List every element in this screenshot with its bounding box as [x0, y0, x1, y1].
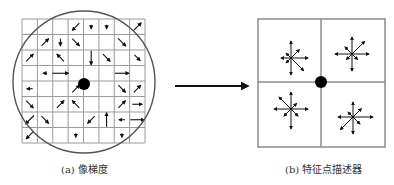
orientation-arrow-icon [286, 58, 291, 63]
keypoint-descriptor-panel [258, 19, 385, 147]
sift-descriptor-figure [0, 0, 394, 185]
keypoint-dot [78, 78, 90, 90]
gradient-arrow-icon [118, 85, 125, 92]
orientation-arrow-icon [340, 117, 353, 130]
gradient-arrow-icon [88, 116, 95, 123]
gradient-arrow-icon [26, 101, 33, 108]
gradient-arrow-icon [57, 54, 64, 61]
gradient-arrow-icon [26, 132, 33, 139]
gradient-arrow-icon [103, 54, 110, 61]
gradient-arrow-icon [57, 101, 64, 108]
orientation-arrow-icon [352, 41, 365, 54]
orientation-arrow-icon [279, 97, 291, 109]
caption-keypoint-descriptor: (b) 特征点描述器 [285, 161, 362, 176]
gradient-arrow-icon [134, 85, 141, 92]
orientation-arrow-icon [291, 109, 298, 116]
orientation-histogram-bottom-left [274, 92, 308, 129]
orientation-histogram-top-right [335, 37, 369, 71]
orientation-arrow-icon [353, 109, 361, 117]
gradient-arrow-icon [118, 101, 125, 108]
gradient-arrow-icon [42, 116, 49, 123]
gradient-arrow-icon [26, 54, 33, 61]
orientation-histogram-bottom-right [338, 102, 373, 134]
orientation-histogram-top-left [281, 41, 308, 75]
orientation-arrow-icon [284, 109, 291, 116]
gradient-arrow-icon [118, 38, 126, 46]
orientation-arrow-icon [291, 50, 299, 58]
orientation-arrow-icon [286, 53, 291, 58]
orientation-arrow-icon [291, 58, 304, 71]
orientation-arrow-icon [348, 112, 353, 117]
orientation-arrow-icon [352, 54, 358, 60]
image-gradient-panel [13, 11, 155, 153]
gradient-arrow-icon [72, 101, 79, 108]
gradient-arrow-icon [72, 23, 79, 30]
gradient-arrow-icon [134, 55, 140, 61]
keypoint-dot [315, 76, 327, 88]
gradient-arrow-icon [72, 39, 79, 46]
orientation-arrow-icon [346, 54, 352, 60]
caption-image-gradient: (a) 像梯度 [61, 161, 108, 176]
gradient-arrow-icon [133, 23, 141, 31]
orientation-arrow-icon [353, 117, 360, 124]
gradient-arrow-icon [72, 85, 79, 92]
orientation-arrow-icon [345, 47, 352, 54]
orientation-arrow-icon [291, 103, 297, 109]
gradient-arrow-icon [42, 39, 49, 46]
gradient-arrow-icon [25, 116, 33, 124]
